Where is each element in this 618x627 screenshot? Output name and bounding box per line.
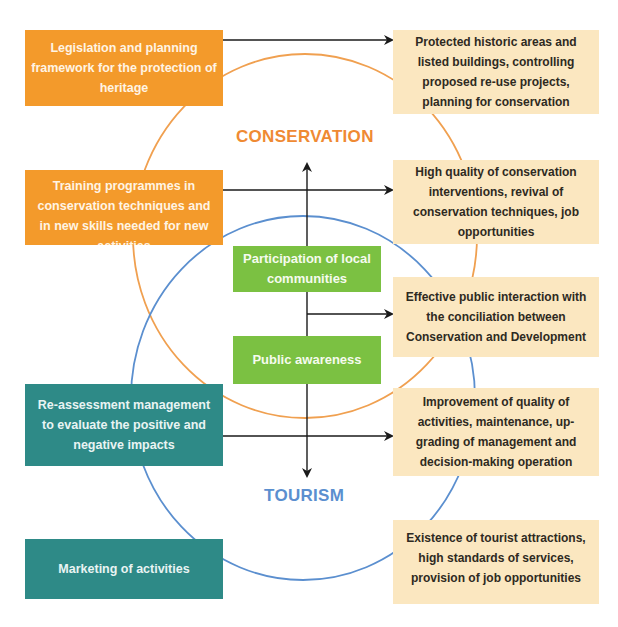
outcome-box-text: Effective public interaction with the co… — [399, 287, 593, 347]
outcome-box-text: High quality of conservation interventio… — [399, 162, 593, 242]
outcome-box-text: Protected historic areas and listed buil… — [399, 32, 593, 112]
outcome-box-text: Improvement of quality of activities, ma… — [399, 392, 593, 472]
conservation-label: CONSERVATION — [236, 127, 374, 147]
input-box-text: Legislation and planning framework for t… — [31, 38, 217, 98]
center-box-text: Public awareness — [252, 350, 361, 370]
input-box-marketing: Marketing of activities — [25, 539, 223, 599]
outcome-box-high-quality: High quality of conservation interventio… — [393, 160, 599, 244]
input-box-legislation: Legislation and planning framework for t… — [25, 30, 223, 106]
input-box-text: Marketing of activities — [58, 559, 189, 579]
outcome-box-protected-areas: Protected historic areas and listed buil… — [393, 30, 599, 114]
outcome-box-text: Existence of tourist attractions, high s… — [399, 528, 593, 588]
input-box-text: Training programmes in conservation tech… — [31, 176, 217, 245]
outcome-box-improvement: Improvement of quality of activities, ma… — [393, 388, 599, 476]
input-box-reassessment: Re-assessment management to evaluate the… — [25, 384, 223, 466]
tourism-label: TOURISM — [264, 486, 344, 506]
outcome-box-public-interaction: Effective public interaction with the co… — [393, 277, 599, 357]
center-box-awareness: Public awareness — [233, 336, 381, 384]
input-box-text: Re-assessment management to evaluate the… — [31, 395, 217, 455]
center-box-participation: Participation of local communities — [233, 246, 381, 292]
center-box-text: Participation of local communities — [239, 249, 375, 289]
conservation-tourism-diagram: CONSERVATION TOURISM Legislation and pla… — [0, 0, 618, 627]
input-box-training: Training programmes in conservation tech… — [25, 170, 223, 245]
outcome-box-tourist-attractions: Existence of tourist attractions, high s… — [393, 520, 599, 604]
